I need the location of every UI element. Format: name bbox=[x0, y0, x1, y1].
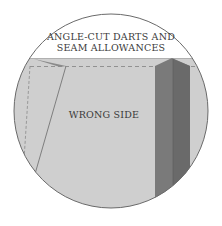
diagram-canvas: ANGLE-CUT DARTS AND SEAM ALLOWANCES WRON… bbox=[0, 0, 222, 226]
wrong-side-label: WRONG SIDE bbox=[69, 109, 139, 120]
right-dart-shadow bbox=[173, 59, 190, 226]
title-line-2: SEAM ALLOWANCES bbox=[57, 42, 166, 53]
title-line-1: ANGLE-CUT DARTS AND bbox=[46, 31, 175, 42]
